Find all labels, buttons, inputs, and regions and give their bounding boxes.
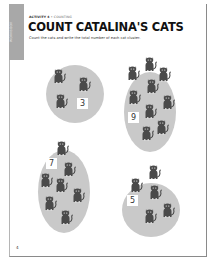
cat-icon	[148, 184, 162, 200]
answer-box[interactable]: 3	[77, 98, 88, 109]
activity-label: ACTIVITY 4 • COUNTING	[29, 15, 72, 19]
page-number: 4	[16, 245, 19, 250]
cat-cluster-3: 7	[38, 150, 90, 233]
answer-box[interactable]: 9	[128, 112, 139, 123]
cat-icon	[126, 65, 140, 81]
cat-icon	[127, 89, 141, 105]
cat-icon	[52, 68, 66, 84]
side-tab-label: WORKBOOK	[9, 14, 24, 50]
cat-icon	[54, 93, 68, 109]
cat-icon	[77, 76, 91, 92]
cat-cluster-1: 3	[46, 65, 104, 123]
cat-icon	[145, 78, 159, 94]
instructions: Count the cats and write the total numbe…	[29, 36, 140, 40]
cat-icon	[71, 187, 85, 203]
activity-number: ACTIVITY 4	[29, 15, 50, 19]
cat-icon	[62, 161, 76, 177]
cat-icon	[129, 177, 143, 193]
cat-icon	[143, 208, 157, 224]
cat-icon	[43, 195, 57, 211]
cat-cluster-4: 5	[122, 183, 180, 237]
cat-icon	[39, 172, 53, 188]
cat-icon	[157, 66, 171, 82]
cat-icon	[140, 125, 154, 141]
activity-category: COUNTING	[54, 15, 72, 19]
page-title: COUNT CATALINA'S CATS	[28, 20, 184, 34]
cat-cluster-2: 9	[124, 72, 176, 152]
cat-icon	[161, 94, 175, 110]
cat-icon	[59, 209, 73, 225]
cat-icon	[55, 140, 69, 156]
cat-icon	[147, 164, 161, 180]
answer-box[interactable]: 5	[127, 195, 138, 206]
cat-icon	[155, 119, 169, 135]
side-tab: WORKBOOK	[9, 4, 24, 60]
cat-icon	[161, 202, 175, 218]
cat-icon	[143, 103, 157, 119]
cat-icon	[143, 56, 157, 72]
cat-icon	[54, 177, 68, 193]
answer-box[interactable]: 7	[46, 158, 57, 169]
